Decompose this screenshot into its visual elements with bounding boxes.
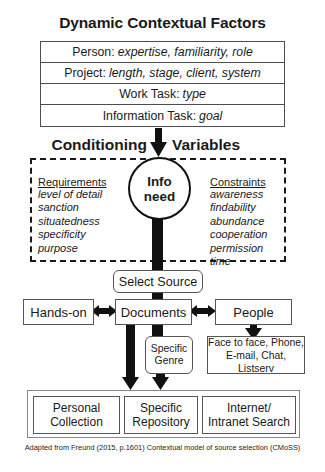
table-row: Project: length, stage, client, system — [41, 63, 284, 84]
list-item: specificity — [38, 228, 130, 241]
info-need-line1: Info — [147, 174, 172, 189]
factor-values: goal — [196, 109, 222, 123]
factor-values: expertise, familiarity, role — [115, 45, 253, 59]
factor-label: Person: — [72, 45, 114, 59]
table-row: Work Task: type — [41, 84, 284, 105]
communication-channels-node: Face to face, Phone, E-mail, Chat, Lists… — [207, 336, 305, 374]
list-item: cooperation — [210, 228, 302, 241]
outcome-line1: Personal — [53, 401, 100, 416]
list-item: abundance — [210, 215, 302, 228]
factor-label: Information Task: — [103, 109, 196, 123]
comms-line1: Face to face, Phone, — [208, 336, 304, 349]
factor-values: type — [180, 87, 206, 101]
source-node-hands-on: Hands-on — [23, 299, 94, 325]
comms-line2: E-mail, Chat, Listserv — [208, 349, 304, 375]
source-node-documents: Documents — [115, 299, 192, 325]
down-arrow-icon — [150, 128, 167, 157]
constraints-column: Constraints awareness findability abunda… — [210, 176, 302, 268]
outcome-line1: Internet/ — [227, 401, 271, 416]
select-source-node: Select Source — [113, 270, 203, 293]
double-arrow-icon — [189, 305, 216, 317]
list-item: findability — [210, 201, 302, 214]
list-item: permission — [210, 242, 302, 255]
list-item: purpose — [38, 242, 130, 255]
constraints-heading: Constraints — [210, 176, 302, 188]
figure-caption: Adapted from Freund (2015, p.1601) Conte… — [0, 443, 325, 452]
conditioning-heading-left: Conditioning — [32, 136, 147, 154]
outcome-line2: Intranet Search — [208, 415, 290, 430]
outcome-node-internet-search: Internet/ Intranet Search — [202, 396, 296, 434]
genre-line1: Specific — [151, 343, 187, 355]
list-item: level of detail — [38, 188, 130, 201]
page-title: Dynamic Contextual Factors — [0, 14, 325, 32]
connector-documents-branch — [126, 322, 135, 369]
specific-genre-node: Specific Genre — [145, 336, 193, 374]
diagram-canvas: Dynamic Contextual Factors Person: exper… — [0, 0, 325, 472]
info-need-node: Info need — [128, 157, 191, 220]
outcome-node-specific-repository: Specific Repository — [124, 396, 198, 434]
dynamic-factors-table: Person: expertise, familiarity, role Pro… — [40, 41, 285, 127]
requirements-column: Requirements level of detail sanction si… — [38, 176, 130, 255]
factor-label: Project: — [64, 66, 106, 80]
factor-label: Work Task: — [119, 87, 179, 101]
outcome-line2: Collection — [50, 415, 103, 430]
conditioning-heading-right: Variables — [172, 136, 292, 154]
outcome-node-personal-collection: Personal Collection — [33, 396, 120, 434]
list-item: awareness — [210, 188, 302, 201]
outcome-line2: Repository — [132, 415, 189, 430]
factor-values: length, stage, client, system — [106, 66, 261, 80]
source-node-people: People — [215, 299, 292, 325]
table-row: Person: expertise, familiarity, role — [41, 42, 284, 63]
list-item: situatedness — [38, 215, 130, 228]
down-arrow-icon — [122, 366, 139, 390]
genre-line2: Genre — [155, 355, 184, 367]
double-arrow-icon — [91, 305, 117, 317]
table-row: Information Task: goal — [41, 105, 284, 126]
info-need-line2: need — [144, 189, 175, 204]
list-item: sanction — [38, 201, 130, 214]
outcome-line1: Specific — [140, 401, 182, 416]
requirements-heading: Requirements — [38, 176, 130, 188]
